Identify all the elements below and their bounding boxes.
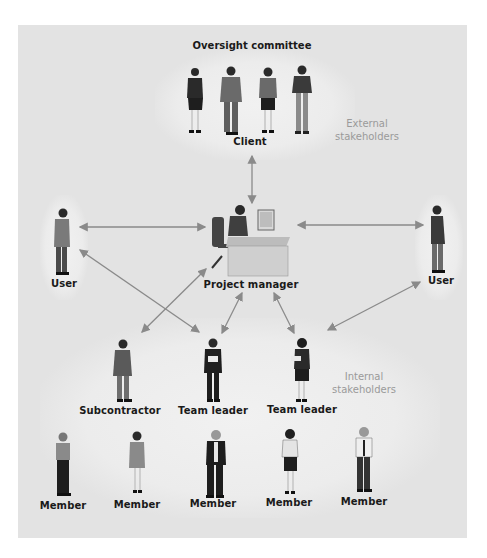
internal-stakeholders-label: Internal stakeholders <box>332 370 396 396</box>
team-leader-2-label: Team leader <box>267 404 337 415</box>
team-leader-1-icon <box>204 339 222 403</box>
user-right-label: User <box>428 275 454 286</box>
project-manager-desk-icon <box>212 205 290 276</box>
subcontractor-label: Subcontractor <box>79 405 161 416</box>
client-label: Client <box>233 136 266 147</box>
internal-label-line1: Internal <box>332 370 396 383</box>
external-label-line1: External <box>335 117 399 130</box>
internal-label-line2: stakeholders <box>332 383 396 396</box>
oversight-committee-title: Oversight committee <box>193 40 312 51</box>
member-4-icon <box>282 429 298 494</box>
committee-person-2-icon <box>220 67 242 136</box>
member-5-label: Member <box>341 496 388 507</box>
member-2-label: Member <box>114 499 161 510</box>
member-1-label: Member <box>40 500 87 511</box>
team-leader-2-icon <box>291 338 310 402</box>
user-right-icon <box>431 206 445 274</box>
committee-person-1-icon <box>187 68 203 133</box>
external-label-line2: stakeholders <box>335 130 399 143</box>
user-left-icon <box>54 209 70 276</box>
member-4-label: Member <box>266 497 313 508</box>
member-3-label: Member <box>190 498 237 509</box>
external-stakeholders-label: External stakeholders <box>335 117 399 143</box>
committee-person-4-icon <box>292 66 312 135</box>
user-left-label: User <box>51 278 77 289</box>
member-2-icon <box>129 432 145 494</box>
member-3-icon <box>206 430 226 498</box>
project-manager-label: Project manager <box>204 279 299 290</box>
team-leader-1-label: Team leader <box>178 405 248 416</box>
member-1-icon <box>56 433 71 497</box>
subcontractor-icon <box>113 340 132 403</box>
committee-person-3-icon <box>259 68 277 134</box>
member-5-icon <box>356 427 372 492</box>
